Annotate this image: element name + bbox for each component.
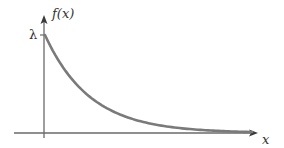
- y-axis-label: f(x): [52, 7, 74, 20]
- chart-canvas: [0, 0, 284, 148]
- exponential-decay-curve: [45, 35, 252, 132]
- y-intercept-label: λ: [29, 28, 37, 41]
- x-axis-label: x: [262, 133, 269, 146]
- y-axis: [41, 15, 48, 138]
